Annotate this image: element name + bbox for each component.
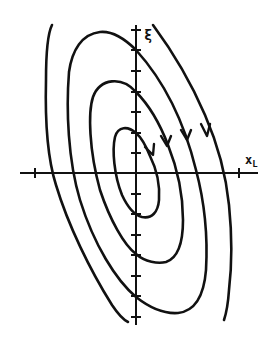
y-axis-label: ξ bbox=[144, 27, 152, 43]
y-axis bbox=[131, 25, 141, 325]
x-axis-label: xL bbox=[245, 153, 258, 169]
phase-portrait-diagram: ξ xL bbox=[0, 0, 276, 344]
direction-arrows bbox=[145, 124, 210, 155]
arrow-icon bbox=[201, 124, 210, 136]
